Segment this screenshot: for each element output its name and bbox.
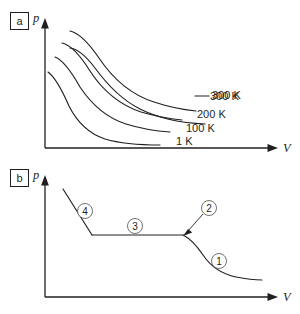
curve-100k [55,57,170,132]
marker-region-2-number: 2 [206,203,212,214]
marker-region-4: 4 [78,204,93,219]
temp-label-1k: 1 K [176,135,193,147]
marker-region-4-number: 4 [82,206,88,217]
panel-b-plot: p V 4 3 2 [0,157,300,314]
marker-region-3-number: 3 [132,221,138,232]
temp-label-100k: 100 K [186,122,215,134]
panel-a-plot: p V 300 K 300 K 200 K 100 K 1 K [0,0,300,157]
temp-label-200k: 200 K [197,108,226,120]
marker-region-3: 3 [128,219,143,234]
marker-region-2-arrowhead [183,229,192,236]
panel-b-y-axis-label: p [32,168,39,182]
panel-b-x-axis-label: V [283,290,292,304]
curve-isotherm-300k [70,48,205,124]
marker-region-2-leader [188,214,203,231]
panel-b: b p V 4 3 [0,157,300,314]
marker-region-1-number: 1 [216,256,222,267]
panel-b-x-axis-arrowhead [268,293,279,301]
marker-region-1: 1 [212,254,227,269]
pv-diagram-figure: a p V 300 K [0,0,300,314]
panel-a-y-axis-arrowhead [41,18,49,29]
curve-1k [48,72,160,145]
panel-b-y-axis-arrowhead [41,175,49,186]
marker-region-2: 2 [183,201,217,237]
panel-a: a p V 300 K [0,0,300,157]
temp-label-300k: 300 K [210,90,239,102]
panel-a-x-axis-label: V [283,141,292,155]
panel-a-y-axis-label: p [32,11,39,25]
curve-200k [62,43,182,120]
panel-a-x-axis-arrowhead [268,144,279,152]
